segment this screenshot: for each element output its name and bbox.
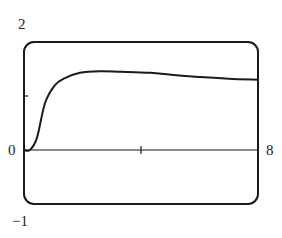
function-curve [24,71,258,151]
y-max-label: 2 [18,17,26,32]
y-min-label: −1 [12,214,28,229]
y-zero-label: 0 [8,143,16,158]
chart [0,0,282,238]
viewing-window-frame [24,42,258,204]
x-max-label: 8 [266,143,274,158]
